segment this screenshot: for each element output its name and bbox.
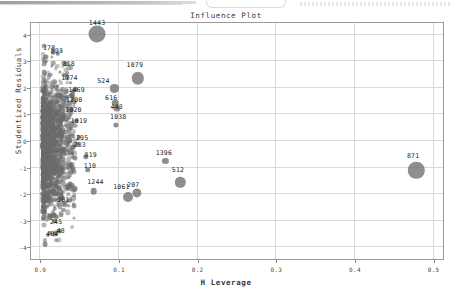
y-tick-mark bbox=[27, 221, 30, 222]
data-point bbox=[62, 185, 67, 190]
x-tick-label: 0.1 bbox=[113, 266, 125, 273]
point-label: 1774 bbox=[61, 74, 77, 82]
data-point bbox=[63, 139, 67, 143]
data-point bbox=[72, 155, 77, 160]
y-tick-mark bbox=[27, 194, 30, 195]
gridline-horizontal bbox=[31, 87, 443, 88]
data-point bbox=[64, 129, 69, 134]
gridline-horizontal bbox=[31, 140, 443, 141]
point-label: 1020 bbox=[65, 106, 81, 114]
y-tick-label: -2 bbox=[15, 191, 27, 198]
data-point bbox=[72, 203, 76, 207]
y-tick-label: -3 bbox=[15, 217, 27, 224]
data-point bbox=[48, 72, 53, 77]
gridline-vertical bbox=[433, 23, 434, 259]
gridline-horizontal bbox=[31, 220, 443, 221]
gridline-horizontal bbox=[31, 60, 443, 61]
point-label: 1019 bbox=[71, 117, 87, 125]
y-axis-label: Studentized Residuals bbox=[14, 31, 23, 171]
point-label: 871 bbox=[407, 152, 419, 160]
top-artifact-bar bbox=[0, 1, 196, 4]
x-tick-mark bbox=[276, 260, 277, 263]
y-tick-label: 4 bbox=[15, 31, 27, 38]
data-point bbox=[54, 143, 59, 148]
data-point bbox=[45, 204, 49, 208]
point-label: 1244 bbox=[87, 178, 103, 186]
y-tick-label: 2 bbox=[15, 84, 27, 91]
data-point bbox=[66, 115, 70, 119]
point-label: 443 bbox=[111, 103, 123, 111]
plot-area[interactable] bbox=[30, 22, 444, 260]
data-point bbox=[57, 163, 62, 168]
data-point bbox=[43, 194, 47, 198]
y-tick-mark bbox=[27, 141, 30, 142]
x-tick-mark bbox=[434, 260, 435, 263]
top-artifact-underline bbox=[0, 4, 182, 5]
x-axis-label: H Leverage bbox=[0, 278, 452, 287]
y-tick-mark bbox=[27, 247, 30, 248]
y-tick-label: 3 bbox=[15, 58, 27, 65]
point-label: 1200 bbox=[66, 96, 82, 104]
y-tick-label: -4 bbox=[15, 244, 27, 251]
data-point bbox=[55, 106, 58, 109]
data-point bbox=[48, 176, 52, 180]
data-point bbox=[42, 69, 47, 74]
data-point-labeled[interactable] bbox=[89, 26, 106, 43]
y-tick-label: 0 bbox=[15, 138, 27, 145]
data-point bbox=[62, 151, 66, 155]
gridline-vertical bbox=[354, 23, 355, 259]
point-label: 819 bbox=[85, 151, 97, 159]
data-point bbox=[42, 62, 47, 67]
y-tick-mark bbox=[27, 168, 30, 169]
point-label: 901 bbox=[57, 196, 69, 204]
screenshot-root: Influence Plot H Leverage Studentized Re… bbox=[0, 0, 452, 298]
data-point bbox=[59, 139, 63, 143]
chart-title: Influence Plot bbox=[0, 11, 452, 20]
data-point bbox=[41, 88, 46, 93]
point-label: 512 bbox=[172, 166, 184, 174]
point-label: 818 bbox=[63, 60, 75, 68]
y-tick-mark bbox=[27, 88, 30, 89]
data-point bbox=[67, 181, 72, 186]
data-point bbox=[67, 175, 71, 179]
y-tick-label: 1 bbox=[15, 111, 27, 118]
data-point bbox=[51, 102, 55, 106]
data-point bbox=[58, 205, 63, 210]
point-label: 593 bbox=[51, 47, 63, 55]
point-label: 524 bbox=[97, 77, 109, 85]
data-point bbox=[68, 186, 73, 191]
point-label: 245 bbox=[50, 218, 62, 226]
y-tick-label: -1 bbox=[15, 164, 27, 171]
y-tick-mark bbox=[27, 35, 30, 36]
point-label: 110 bbox=[84, 162, 96, 170]
top-artifact-tab bbox=[206, 0, 286, 8]
point-label: 1396 bbox=[156, 149, 172, 157]
data-point bbox=[42, 52, 46, 56]
data-point bbox=[72, 150, 78, 156]
top-artifact-dots bbox=[300, 2, 450, 6]
gridline-vertical bbox=[118, 23, 119, 259]
data-point bbox=[41, 147, 46, 152]
point-label: 283 bbox=[74, 141, 86, 149]
data-point bbox=[50, 191, 56, 197]
data-point bbox=[70, 225, 74, 229]
x-tick-mark bbox=[355, 260, 356, 263]
point-label: 207 bbox=[127, 181, 139, 189]
x-tick-label: 0.4 bbox=[349, 266, 361, 273]
x-tick-mark bbox=[198, 260, 199, 263]
data-point-labeled[interactable] bbox=[91, 188, 98, 195]
data-point bbox=[44, 79, 49, 84]
x-tick-label: 0.5 bbox=[428, 266, 440, 273]
point-label: 1038 bbox=[110, 113, 126, 121]
data-point bbox=[41, 155, 46, 160]
point-label: 1079 bbox=[127, 61, 143, 69]
point-label: 1469 bbox=[68, 86, 84, 94]
data-point bbox=[63, 124, 67, 128]
gridline-vertical bbox=[197, 23, 198, 259]
y-tick-mark bbox=[27, 114, 30, 115]
x-tick-mark bbox=[40, 260, 41, 263]
x-tick-label: 0.3 bbox=[270, 266, 282, 273]
gridline-vertical bbox=[275, 23, 276, 259]
point-label: 616 bbox=[105, 94, 117, 102]
data-point bbox=[40, 185, 46, 191]
